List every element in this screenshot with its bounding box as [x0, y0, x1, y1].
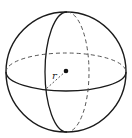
- meridian-back-dashed: [67, 12, 89, 132]
- center-point: [64, 69, 69, 74]
- sphere-drawing: r: [0, 0, 132, 138]
- sphere-diagram: r: [0, 0, 132, 138]
- equator-front: [6, 72, 126, 91]
